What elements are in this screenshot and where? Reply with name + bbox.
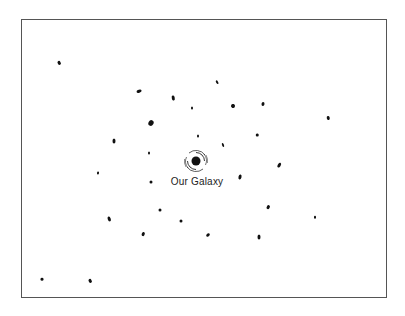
galaxy-dot — [256, 134, 259, 137]
galaxy-dot — [180, 220, 183, 223]
galaxy-dot — [197, 135, 199, 138]
galaxy-dot — [314, 216, 316, 219]
galaxy-dot — [191, 107, 193, 110]
galaxy-dot — [148, 152, 150, 155]
galaxy-dot — [41, 278, 44, 281]
galaxy-dot — [150, 181, 153, 184]
galaxy-dot — [326, 116, 329, 120]
galaxy-dot — [113, 139, 116, 144]
our-galaxy-spiral-icon — [181, 146, 211, 176]
galaxy-dot — [159, 209, 162, 212]
galaxy-dot — [258, 235, 261, 240]
our-galaxy-label: Our Galaxy — [171, 176, 224, 187]
